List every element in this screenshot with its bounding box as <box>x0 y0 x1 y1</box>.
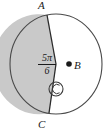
center-point-dot <box>66 61 72 67</box>
point-label-c: C <box>38 119 45 130</box>
angle-numerator: 5π <box>36 53 58 63</box>
point-label-b: B <box>74 60 81 71</box>
angle-arc-marker-inner-icon <box>52 84 59 93</box>
angle-denominator: 6 <box>36 66 58 76</box>
geometry-figure: A B C 5π 6 <box>0 0 112 134</box>
central-angle-label: 5π 6 <box>36 53 58 76</box>
point-label-a: A <box>38 0 45 11</box>
